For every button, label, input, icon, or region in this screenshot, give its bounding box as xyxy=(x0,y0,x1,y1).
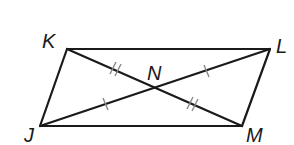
parallelogram-diagram: K L N J M xyxy=(0,0,294,145)
vertex-label-K: K xyxy=(42,30,57,52)
side-LM xyxy=(242,49,270,126)
vertex-label-L: L xyxy=(276,35,287,57)
side-JK xyxy=(40,49,67,126)
vertex-label-M: M xyxy=(246,124,263,145)
intersection-label-N: N xyxy=(147,62,162,84)
vertex-label-J: J xyxy=(23,124,35,145)
diagonal-JL xyxy=(40,49,270,126)
